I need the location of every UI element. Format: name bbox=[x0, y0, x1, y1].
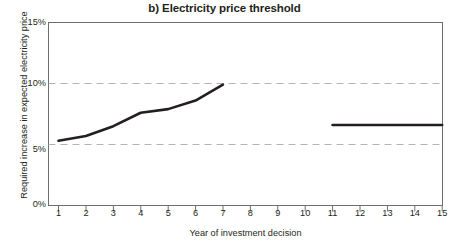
x-tick-label-15: 15 bbox=[430, 209, 449, 218]
x-tick-label-11: 11 bbox=[321, 209, 345, 218]
x-tick-label-5: 5 bbox=[156, 209, 180, 218]
x-tick-label-2: 2 bbox=[74, 209, 98, 218]
plot-border bbox=[49, 23, 443, 206]
x-tick-label-6: 6 bbox=[184, 209, 208, 218]
x-tick-label-14: 14 bbox=[403, 209, 427, 218]
x-tick-label-9: 9 bbox=[266, 209, 290, 218]
x-tick-label-8: 8 bbox=[238, 209, 262, 218]
x-tick-label-10: 10 bbox=[293, 209, 317, 218]
x-tick-label-1: 1 bbox=[47, 209, 71, 218]
x-tick-label-12: 12 bbox=[348, 209, 372, 218]
x-tick-label-4: 4 bbox=[129, 209, 153, 218]
x-tick-label-13: 13 bbox=[375, 209, 399, 218]
x-tick-label-3: 3 bbox=[101, 209, 125, 218]
data-line-series-1 bbox=[59, 85, 223, 141]
x-tick-label-7: 7 bbox=[211, 209, 235, 218]
chart-figure: b) Electricity price threshold Required … bbox=[0, 0, 449, 245]
x-axis-label: Year of investment decision bbox=[48, 228, 443, 238]
